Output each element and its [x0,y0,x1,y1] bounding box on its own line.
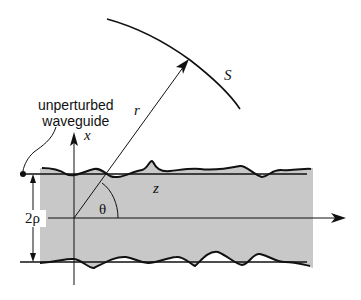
caption-unperturbed-waveguide: unperturbed waveguide [38,97,114,129]
caption-leader-curve [23,127,56,171]
caption-line-1: unperturbed [38,97,114,113]
surface-s-arc [107,19,240,109]
caption-line-2: waveguide [38,113,114,129]
width-arrow-top [30,174,36,183]
surface-label: S [224,67,232,83]
boundary-marker-dot [20,171,26,177]
waveguide-diagram [0,0,361,300]
z-axis-label: z [153,180,159,196]
width-arrow-bottom [30,253,36,262]
radius-arrowhead [176,59,189,74]
theta-label: θ [99,201,106,217]
radius-label: r [134,102,140,118]
width-label: 2ρ [25,210,40,226]
perturbed-core-region [40,161,313,268]
x-axis-label: x [84,127,91,143]
